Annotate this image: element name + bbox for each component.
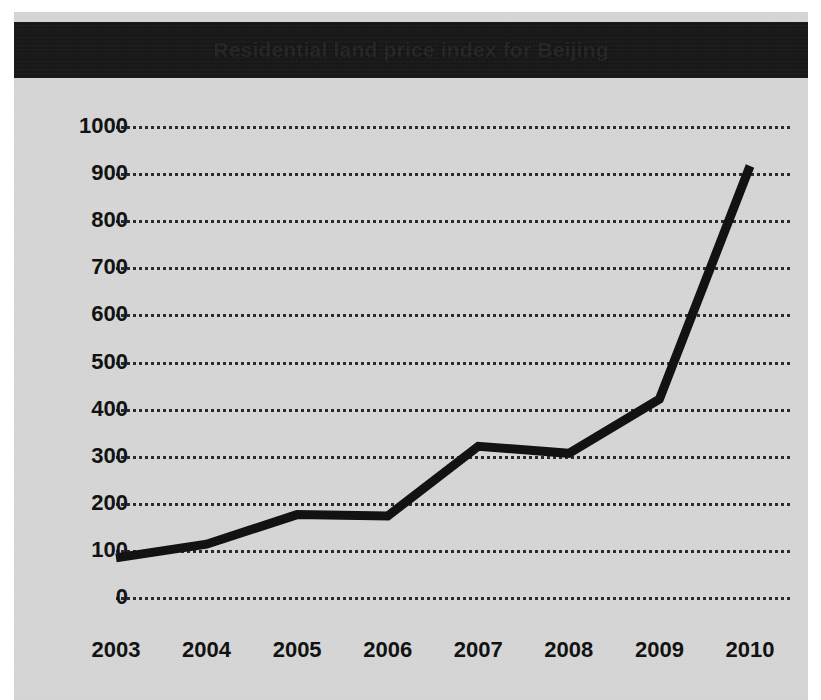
chart-card: Residential land price index for Beijing…: [14, 12, 808, 700]
series-line-residential-land-price-index: [116, 166, 750, 558]
plot-area: 01002003004005006007008009001000 2003200…: [14, 12, 808, 700]
chart-page: Residential land price index for Beijing…: [0, 0, 821, 700]
series-line-chart: [14, 12, 808, 700]
